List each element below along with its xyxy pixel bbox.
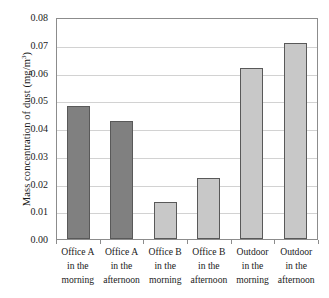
x-axis-category-label: Outdoorin theafternoon: [274, 245, 318, 293]
bar[interactable]: [154, 202, 177, 239]
y-axis-tick-label: 0.00: [16, 235, 48, 245]
y-axis-tick-label: 0.07: [16, 41, 48, 51]
x-axis-label-line: in the: [101, 259, 143, 273]
bar-slot: [187, 19, 230, 239]
x-axis-label-line: Outdoor: [232, 245, 274, 259]
x-axis-category-label: Outdoorin themorning: [231, 245, 275, 293]
x-axis-label-line: morning: [144, 273, 186, 287]
y-axis-tick-label: 0.03: [16, 152, 48, 162]
x-axis-label-line: Office A: [101, 245, 143, 259]
y-axis-tick-label: 0.08: [16, 13, 48, 23]
y-axis-tick-label: 0.04: [16, 124, 48, 134]
x-axis-label-line: in the: [144, 259, 186, 273]
x-axis-label-line: Office B: [188, 245, 230, 259]
x-axis-category-labels: Office Ain themorningOffice Ain theafter…: [56, 245, 318, 293]
bar[interactable]: [67, 106, 90, 239]
x-axis-tick: [100, 240, 101, 244]
x-axis-category-label: Office Bin themorning: [143, 245, 187, 293]
bar[interactable]: [240, 68, 263, 239]
bar-slot: [274, 19, 317, 239]
x-axis-label-line: morning: [57, 273, 99, 287]
bar-slot: [100, 19, 143, 239]
y-axis-tick-label: 0.06: [16, 69, 48, 79]
x-axis-label-line: in the: [275, 259, 317, 273]
x-axis-label-line: afternoon: [101, 273, 143, 287]
bar[interactable]: [110, 121, 133, 239]
x-axis-label-line: morning: [232, 273, 274, 287]
x-axis-label-line: Outdoor: [275, 245, 317, 259]
bar-slot: [144, 19, 187, 239]
x-axis-tick: [143, 240, 144, 244]
bar-chart-figure: Mass concentration of dust (mg/m3) 0.080…: [0, 0, 329, 298]
x-axis-category-label: Office Ain theafternoon: [100, 245, 144, 293]
x-axis-category-label: Office Ain themorning: [56, 245, 100, 293]
bar[interactable]: [197, 178, 220, 239]
x-axis-tick: [274, 240, 275, 244]
x-axis-tick: [56, 240, 57, 244]
x-axis-tick: [187, 240, 188, 244]
bar-slot: [57, 19, 100, 239]
y-axis-tick-label: 0.05: [16, 96, 48, 106]
bars-layer: [57, 19, 317, 239]
x-axis-label-line: Office B: [144, 245, 186, 259]
x-axis-label-line: afternoon: [275, 273, 317, 287]
x-axis-tick: [231, 240, 232, 244]
x-axis-label-line: in the: [57, 259, 99, 273]
plot-area: [56, 18, 318, 240]
x-axis-label-line: in the: [188, 259, 230, 273]
x-axis-label-line: Office A: [57, 245, 99, 259]
y-axis-tick-label: 0.02: [16, 180, 48, 190]
y-axis-tick-labels: 0.080.070.060.050.040.030.020.010.00: [18, 18, 52, 240]
x-axis-label-line: in the: [232, 259, 274, 273]
x-axis-label-line: afternoon: [188, 273, 230, 287]
x-axis-tick-marks: [56, 240, 318, 244]
bar-slot: [230, 19, 273, 239]
x-axis-category-label: Office Bin theafternoon: [187, 245, 231, 293]
bar[interactable]: [284, 43, 307, 239]
x-axis-tick: [318, 240, 319, 244]
y-axis-tick-label: 0.01: [16, 207, 48, 217]
